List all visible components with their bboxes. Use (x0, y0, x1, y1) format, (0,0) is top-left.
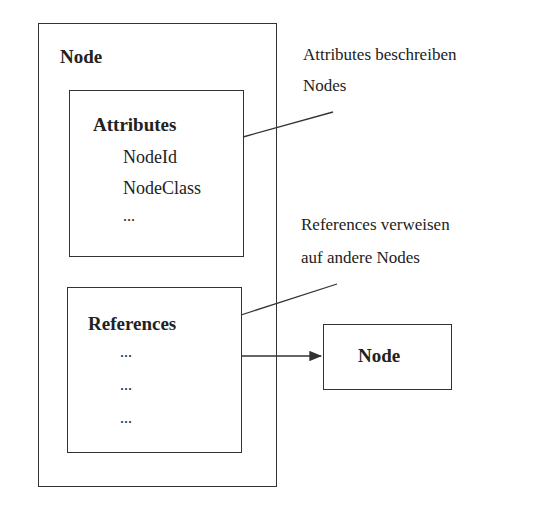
attribute-item: NodeClass (123, 178, 201, 199)
references-title: References (88, 313, 176, 335)
references-note-line2: auf andere Nodes (301, 248, 420, 268)
references-note-line1: References verweisen (301, 215, 450, 235)
references-box (67, 287, 242, 453)
attributes-note-line2: Nodes (303, 76, 346, 96)
attributes-note-line1: Attributes beschreiben (303, 45, 456, 65)
reference-item: ... (120, 343, 132, 361)
attribute-item: NodeId (123, 147, 177, 168)
reference-item: ... (120, 376, 132, 394)
reference-item: ... (120, 409, 132, 427)
outer-node-title: Node (60, 46, 102, 68)
attributes-title: Attributes (93, 114, 176, 136)
attribute-item: ... (123, 207, 135, 225)
target-node-title: Node (358, 345, 400, 367)
